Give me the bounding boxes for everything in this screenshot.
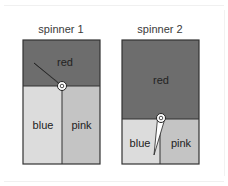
spinner-2-label-pink: pink [163,137,199,149]
spinner-2-label-red: red [146,74,176,86]
divider [4,181,224,182]
spinner-1-pivot [58,82,67,91]
spinner-2-pivot [157,114,166,123]
divider [224,10,225,176]
spinner-1-label-pink: pink [62,119,101,131]
figure-frame: spinner 1 red blue pink spinner 2 red bl… [0,0,228,186]
spinner-1-title: spinner 1 [16,23,106,35]
spinner-2-label-blue: blue [120,137,160,149]
spinner-2-title: spinner 2 [115,23,205,35]
spinner-1-label-blue: blue [23,119,63,131]
spinner-1-label-red: red [50,56,80,68]
divider [4,5,224,6]
